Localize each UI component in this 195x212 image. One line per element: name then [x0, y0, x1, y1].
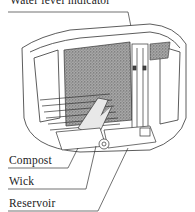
- label-water-level-indicator: Water level indicator: [10, 0, 110, 7]
- label-compost: Compost: [9, 155, 52, 167]
- planter-diagram: Water level indicator Compost Wick Reser…: [0, 0, 195, 212]
- label-reservoir: Reservoir: [9, 198, 56, 210]
- label-wick: Wick: [9, 176, 34, 188]
